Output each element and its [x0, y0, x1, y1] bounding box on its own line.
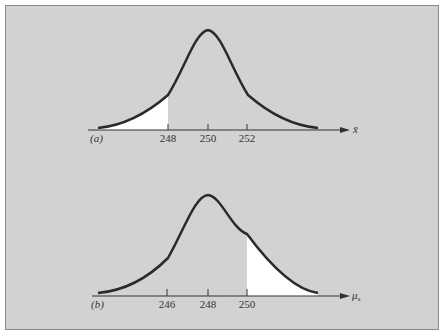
- panel-b: (b) 246 248 250 μx: [91, 195, 362, 311]
- tick-label-a-0: 248: [160, 132, 177, 144]
- shaded-left-tail: [98, 95, 168, 130]
- axis-label-b: μx: [351, 289, 362, 303]
- shaded-right-tail: [247, 234, 318, 296]
- tick-label-b-0: 246: [159, 298, 176, 310]
- axis-label-a: x̄: [352, 123, 358, 135]
- panel-label-b: (b): [91, 298, 104, 311]
- axis-arrow-a: [340, 127, 350, 133]
- tick-label-a-1: 250: [200, 132, 217, 144]
- tick-label-a-2: 252: [239, 132, 256, 144]
- axis-arrow-b: [340, 293, 350, 299]
- tick-label-b-2: 250: [239, 298, 256, 310]
- figure-svg: (a) 248 250 252 x̄ (b) 246 248 250 μx: [0, 0, 443, 336]
- normal-curve-a: [98, 30, 318, 128]
- panel-label-a: (a): [90, 132, 103, 145]
- panel-a: (a) 248 250 252 x̄: [88, 30, 358, 145]
- tick-label-b-1: 248: [200, 298, 217, 310]
